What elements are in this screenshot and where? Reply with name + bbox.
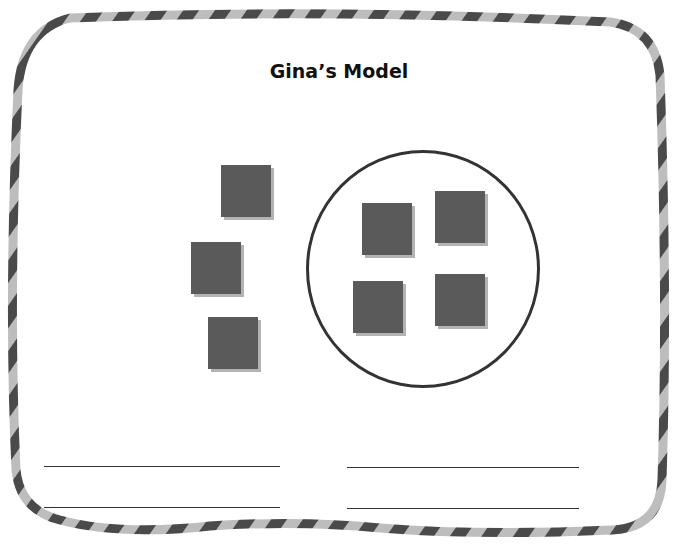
answer-line-left-1[interactable]	[44, 466, 280, 467]
answer-line-right-1[interactable]	[347, 467, 579, 468]
counter-inside-4	[435, 274, 485, 326]
answer-line-right-2[interactable]	[347, 508, 579, 509]
counter-inside-1	[362, 203, 412, 255]
answer-line-left-2[interactable]	[44, 507, 280, 508]
group-circle	[306, 150, 540, 388]
model-title: Gina’s Model	[0, 60, 678, 82]
counter-inside-2	[435, 191, 485, 243]
counter-outside-1	[221, 165, 271, 217]
counter-outside-2	[191, 242, 241, 294]
counter-outside-3	[208, 317, 258, 369]
counter-inside-3	[353, 281, 403, 333]
